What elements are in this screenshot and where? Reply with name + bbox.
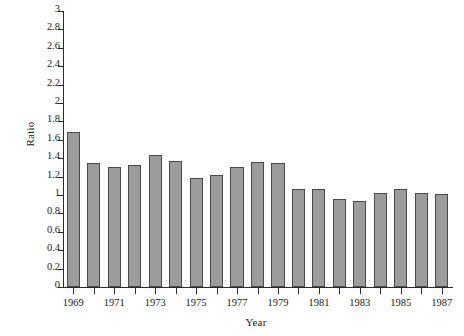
- plot-area: [63, 11, 452, 287]
- x-axis-title: Year: [60, 316, 452, 328]
- x-axis-tick-mark: [421, 288, 422, 294]
- bar: [415, 193, 428, 287]
- x-axis-tick-label: 1977: [227, 297, 248, 308]
- bar: [149, 155, 162, 287]
- y-axis-tick-label: 1.8: [47, 113, 60, 124]
- bar: [394, 189, 407, 287]
- x-axis-tick-mark: [135, 288, 136, 294]
- x-axis-tick-mark: [94, 288, 95, 294]
- x-axis-tick-mark: [360, 288, 361, 294]
- bar: [108, 167, 121, 287]
- y-axis-tick-label: 2.8: [47, 21, 60, 32]
- x-axis-tick-mark: [442, 288, 443, 294]
- x-axis-tick-label: 1969: [63, 297, 84, 308]
- y-axis-tick-label: 0: [55, 279, 60, 290]
- x-axis-tick-mark: [114, 288, 115, 294]
- x-axis-tick-mark: [176, 288, 177, 294]
- x-axis-tick-mark: [196, 288, 197, 294]
- x-axis-tick-label: 1975: [186, 297, 207, 308]
- y-axis-tick-label: 2.2: [47, 77, 60, 88]
- y-axis-tick-label: 0.6: [47, 224, 60, 235]
- x-axis-tick-label: 1981: [308, 297, 329, 308]
- x-axis-tick-mark: [278, 288, 279, 294]
- x-axis-tick-mark: [258, 288, 259, 294]
- bar: [435, 194, 448, 287]
- x-axis-tick-mark: [155, 288, 156, 294]
- y-axis-tick-label: 1.4: [47, 150, 60, 161]
- y-axis-tick-label: 1.2: [47, 169, 60, 180]
- x-axis-tick-mark: [73, 288, 74, 294]
- x-axis-tick-label: 1983: [349, 297, 370, 308]
- bar: [190, 178, 203, 287]
- bar: [271, 163, 284, 287]
- x-axis-tick-label: 1973: [145, 297, 166, 308]
- bar: [374, 193, 387, 287]
- x-axis-tick-label: 1985: [390, 297, 411, 308]
- bar: [353, 201, 366, 287]
- y-axis-tick-label: 0.4: [47, 242, 60, 253]
- bar: [128, 165, 141, 287]
- bar: [210, 175, 223, 287]
- x-axis-tick-mark: [298, 288, 299, 294]
- bar: [169, 161, 182, 287]
- y-axis-tick-label: 2.4: [47, 58, 60, 69]
- y-axis-tick-label: 0.2: [47, 261, 60, 272]
- y-axis-tick-label: 1.6: [47, 132, 60, 143]
- x-axis-tick-mark: [401, 288, 402, 294]
- y-axis-title: Ratio: [24, 104, 36, 164]
- bar: [312, 189, 325, 287]
- x-axis-tick-mark: [237, 288, 238, 294]
- y-axis-tick-label: 0.8: [47, 205, 60, 216]
- x-axis-tick-label: 1979: [267, 297, 288, 308]
- bar: [67, 132, 80, 287]
- bar: [333, 199, 346, 287]
- y-axis-tick-label: 1: [55, 187, 60, 198]
- y-axis-tick-label: 3: [55, 3, 60, 14]
- bar: [251, 162, 264, 287]
- x-axis-tick-mark: [339, 288, 340, 294]
- x-axis-tick-mark: [217, 288, 218, 294]
- bar: [230, 167, 243, 287]
- bar-chart: Ratio 00.20.40.60.811.21.41.61.822.22.42…: [0, 0, 464, 336]
- x-axis-tick-label: 1971: [104, 297, 125, 308]
- x-axis-tick-label: 1987: [431, 297, 452, 308]
- x-axis-tick-mark: [380, 288, 381, 294]
- bar: [87, 163, 100, 287]
- y-axis-tick-label: 2: [55, 95, 60, 106]
- y-axis-tick-label: 2.6: [47, 40, 60, 51]
- bar: [292, 189, 305, 287]
- x-axis-tick-mark: [319, 288, 320, 294]
